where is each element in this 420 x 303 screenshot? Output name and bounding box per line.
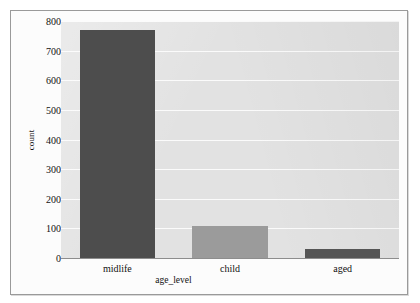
y-tick-label: 700 bbox=[29, 45, 61, 56]
bar-slot bbox=[61, 21, 174, 258]
y-tick-label: 600 bbox=[29, 75, 61, 86]
x-tick-label-midlife: midlife bbox=[61, 263, 174, 274]
y-tick-label: 500 bbox=[29, 104, 61, 115]
bar-aged[interactable] bbox=[305, 249, 380, 258]
y-tick-label: 0 bbox=[29, 253, 61, 264]
bar-child[interactable] bbox=[192, 226, 267, 258]
plot-area bbox=[61, 21, 399, 258]
y-axis-tick-labels: 0100200300400500600700800 bbox=[29, 11, 61, 294]
x-tick-label-child: child bbox=[174, 263, 287, 274]
y-tick-label: 100 bbox=[29, 223, 61, 234]
y-tick-label: 400 bbox=[29, 134, 61, 145]
bar-slot bbox=[174, 21, 287, 258]
y-tick-label: 300 bbox=[29, 164, 61, 175]
x-axis-spine bbox=[61, 258, 399, 259]
bar-midlife[interactable] bbox=[80, 30, 155, 258]
figure-frame: count 0100200300400500600700800 midlifec… bbox=[10, 10, 408, 295]
x-axis-label: age_level bbox=[61, 275, 286, 285]
bar-series bbox=[61, 21, 399, 258]
x-axis-tick-labels: midlifechildaged bbox=[61, 263, 399, 274]
bar-chart-figure: count 0100200300400500600700800 midlifec… bbox=[11, 11, 407, 294]
y-tick-label: 800 bbox=[29, 16, 61, 27]
x-tick-label-aged: aged bbox=[286, 263, 399, 274]
bar-slot bbox=[286, 21, 399, 258]
y-tick-label: 200 bbox=[29, 193, 61, 204]
